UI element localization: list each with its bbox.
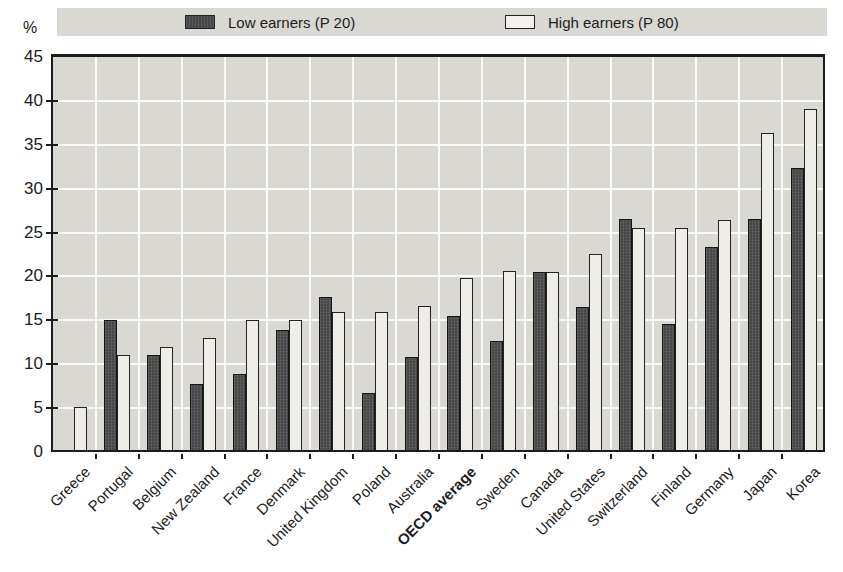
- v-gridline-4: [224, 57, 226, 452]
- legend-label-low-earners: Low earners (P 20): [228, 14, 355, 31]
- y-tick-label-35: 35: [7, 135, 43, 155]
- bar-high-earners-p-80-korea: [804, 109, 817, 452]
- bar-high-earners-p-80-germany: [718, 220, 731, 452]
- x-tick-mark-14: [652, 454, 654, 459]
- y-axis-unit-label: %: [23, 19, 37, 37]
- bar-low-earners-p-20-korea: [791, 168, 804, 452]
- bar-high-earners-p-80-united-kingdom: [332, 312, 345, 452]
- bar-low-earners-p-20-japan: [748, 219, 761, 452]
- y-tick-label-10: 10: [7, 354, 43, 374]
- v-gridline-2: [138, 57, 140, 452]
- bar-low-earners-p-20-france: [233, 374, 246, 452]
- bar-low-earners-p-20-australia: [405, 357, 418, 452]
- x-category-label-oecd-average: OECD average: [394, 463, 480, 549]
- y-tick-label-40: 40: [7, 91, 43, 111]
- y-tick-mark-20: [46, 275, 58, 277]
- bar-high-earners-p-80-finland: [675, 228, 688, 452]
- x-tick-mark-4: [224, 454, 226, 459]
- v-gridline-11: [524, 57, 526, 452]
- x-tick-mark-1: [95, 454, 97, 459]
- v-gridline-16: [738, 57, 740, 452]
- bar-high-earners-p-80-poland: [375, 312, 388, 452]
- bar-low-earners-p-20-united-kingdom: [319, 297, 332, 452]
- legend-item-high-earners: High earners (P 80): [505, 8, 679, 36]
- x-tick-mark-16: [738, 454, 740, 459]
- bar-low-earners-p-20-finland: [662, 324, 675, 452]
- x-category-label-portugal: Portugal: [85, 463, 137, 515]
- v-gridline-1: [95, 57, 97, 452]
- y-tick-label-0: 0: [7, 442, 43, 462]
- v-gridline-3: [181, 57, 183, 452]
- bar-high-earners-p-80-sweden: [503, 271, 516, 452]
- bar-high-earners-p-80-france: [246, 320, 259, 452]
- v-gridline-5: [266, 57, 268, 452]
- x-category-label-united-kingdom: United Kingdom: [263, 463, 350, 550]
- legend-item-low-earners: Low earners (P 20): [185, 8, 355, 36]
- y-tick-label-15: 15: [7, 310, 43, 330]
- bar-high-earners-p-80-canada: [546, 272, 559, 452]
- legend-label-high-earners: High earners (P 80): [548, 14, 679, 31]
- x-tick-mark-10: [481, 454, 483, 459]
- v-gridline-10: [481, 57, 483, 452]
- bar-high-earners-p-80-japan: [761, 133, 774, 453]
- x-tick-mark-7: [352, 454, 354, 459]
- v-gridline-12: [567, 57, 569, 452]
- low-earners-swatch-icon: [185, 15, 215, 29]
- x-tick-mark-15: [695, 454, 697, 459]
- bar-high-earners-p-80-belgium: [160, 347, 173, 452]
- high-earners-swatch-icon: [505, 15, 535, 29]
- bar-low-earners-p-20-denmark: [276, 330, 289, 452]
- bar-high-earners-p-80-denmark: [289, 320, 302, 452]
- bar-high-earners-p-80-new-zealand: [203, 338, 216, 452]
- v-gridline-9: [438, 57, 440, 452]
- bar-low-earners-p-20-sweden: [490, 341, 503, 452]
- x-category-label-sweden: Sweden: [472, 463, 522, 513]
- x-tick-mark-11: [524, 454, 526, 459]
- v-gridline-7: [352, 57, 354, 452]
- x-category-label-japan: Japan: [739, 463, 780, 504]
- bar-high-earners-p-80-oecd-average: [460, 278, 473, 452]
- legend: Low earners (P 20) High earners (P 80): [57, 8, 827, 36]
- y-tick-label-45: 45: [7, 47, 43, 67]
- bar-low-earners-p-20-united-states: [576, 307, 589, 452]
- v-gridline-13: [610, 57, 612, 452]
- x-tick-mark-17: [781, 454, 783, 459]
- y-tick-label-20: 20: [7, 266, 43, 286]
- bar-low-earners-p-20-belgium: [147, 355, 160, 452]
- v-gridline-6: [309, 57, 311, 452]
- y-tick-mark-15: [46, 319, 58, 321]
- bar-high-earners-p-80-portugal: [117, 355, 130, 452]
- bar-low-earners-p-20-switzerland: [619, 219, 632, 452]
- bar-low-earners-p-20-new-zealand: [190, 384, 203, 452]
- v-gridline-17: [781, 57, 783, 452]
- bar-high-earners-p-80-australia: [418, 306, 431, 452]
- y-tick-label-25: 25: [7, 223, 43, 243]
- y-tick-mark-40: [46, 100, 58, 102]
- y-tick-mark-30: [46, 188, 58, 190]
- bar-low-earners-p-20-portugal: [104, 320, 117, 452]
- x-tick-mark-5: [266, 454, 268, 459]
- x-tick-mark-9: [438, 454, 440, 459]
- y-tick-label-5: 5: [7, 398, 43, 418]
- bar-high-earners-p-80-switzerland: [632, 228, 645, 452]
- y-tick-mark-5: [46, 407, 58, 409]
- x-tick-mark-6: [309, 454, 311, 459]
- y-tick-label-30: 30: [7, 179, 43, 199]
- v-gridline-8: [395, 57, 397, 452]
- x-category-label-korea: Korea: [782, 463, 822, 503]
- x-tick-mark-3: [181, 454, 183, 459]
- plot-area: [53, 57, 825, 452]
- bar-high-earners-p-80-united-states: [589, 254, 602, 452]
- bar-low-earners-p-20-oecd-average: [447, 316, 460, 452]
- pension-chart-figure: % Low earners (P 20) High earners (P 80)…: [0, 0, 843, 572]
- x-tick-mark-8: [395, 454, 397, 459]
- v-gridline-14: [652, 57, 654, 452]
- v-gridline-15: [695, 57, 697, 452]
- y-tick-mark-10: [46, 363, 58, 365]
- bar-high-earners-p-80-greece: [74, 407, 87, 452]
- y-tick-mark-25: [46, 232, 58, 234]
- bar-low-earners-p-20-poland: [362, 393, 375, 452]
- x-tick-mark-13: [610, 454, 612, 459]
- x-tick-mark-12: [567, 454, 569, 459]
- x-tick-mark-2: [138, 454, 140, 459]
